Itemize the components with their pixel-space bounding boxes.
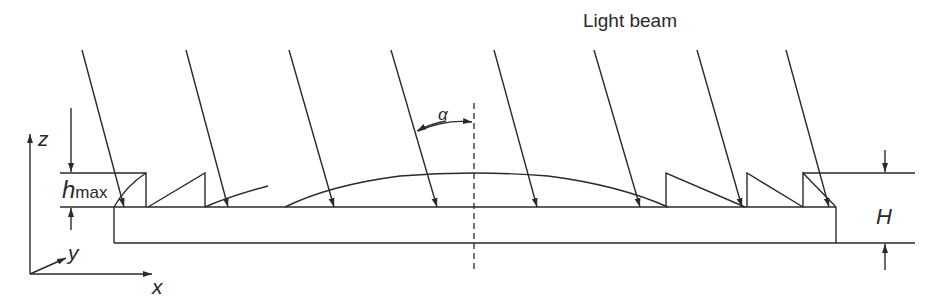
H-label: H xyxy=(876,206,892,228)
axis-x-label: x xyxy=(152,276,163,297)
max-subscript: max xyxy=(75,183,107,202)
light-beam-label: Light beam xyxy=(583,11,677,30)
substrate xyxy=(60,207,915,243)
axis-z-label: z xyxy=(38,128,49,149)
angle-alpha-label: α xyxy=(438,106,448,123)
hmax-label: hmax xyxy=(62,178,107,202)
central-lens-arc xyxy=(285,173,668,207)
left-sawteeth xyxy=(114,173,268,207)
light-rays xyxy=(82,50,829,207)
fresnel-lens-diagram: Light beam α hmax H z y x xyxy=(0,0,926,308)
axis-y-label: y xyxy=(68,242,79,263)
h-symbol: h xyxy=(62,176,75,203)
right-sawteeth xyxy=(666,173,836,207)
coordinate-axes xyxy=(30,134,152,274)
diagram-drawing xyxy=(0,0,926,308)
